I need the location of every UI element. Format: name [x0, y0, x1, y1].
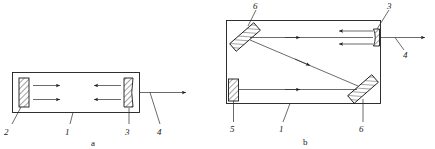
panel-b-leader-3	[377, 10, 389, 29]
panel-a-label-3: 3	[124, 127, 130, 137]
panel-b-rear-mirror-5	[229, 79, 239, 101]
panel-b-leader-1	[283, 104, 290, 123]
panel-a-label-1: 1	[65, 127, 70, 137]
figure-canvas: 2 1 3 4 a	[0, 0, 435, 148]
panel-b-fold-mirror-top-left-6	[230, 23, 261, 52]
panel-a-label-4: 4	[157, 127, 162, 137]
panel-b-beam-diagonal-arrow	[295, 59, 310, 66]
panel-a-caption: a	[91, 138, 95, 148]
panel-b-caption: b	[303, 137, 308, 147]
panel-a-rear-mirror-2	[19, 78, 29, 107]
panel-a-cavity-body	[13, 73, 140, 113]
panel-b-output-coupler-3	[374, 29, 380, 46]
panel-b: 6 3 4 5 1 6 b	[227, 1, 426, 147]
panel-a: 2 1 3 4 a	[4, 73, 186, 149]
panel-a-leader-1	[70, 113, 73, 125]
panel-a-leader-2	[12, 107, 21, 124]
panel-b-label-1: 1	[279, 124, 284, 134]
panel-b-leader-4	[395, 38, 404, 51]
panel-a-output-mirror-3	[124, 78, 133, 107]
panel-b-label-6-bottom: 6	[359, 124, 364, 134]
panel-b-label-5: 5	[230, 124, 235, 134]
panel-b-label-6-top: 6	[253, 1, 258, 11]
panel-b-fold-mirror-bottom-right-6	[348, 75, 379, 104]
panel-a-label-2: 2	[4, 127, 9, 137]
panel-b-label-4: 4	[403, 50, 408, 60]
panel-a-leader-4	[150, 93, 160, 125]
optical-resonator-figure: 2 1 3 4 a	[0, 0, 435, 148]
panel-b-label-3: 3	[386, 1, 392, 11]
